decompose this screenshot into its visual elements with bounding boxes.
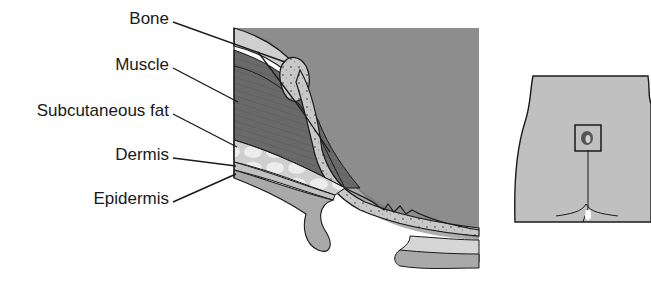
inset-body-view xyxy=(515,76,651,222)
cross-section xyxy=(234,28,479,269)
label-subcutaneous-fat: Subcutaneous fat xyxy=(37,101,169,121)
label-dermis: Dermis xyxy=(115,145,169,165)
label-epidermis: Epidermis xyxy=(93,189,169,209)
body-silhouette xyxy=(515,76,651,222)
diagram-canvas xyxy=(0,0,651,281)
label-muscle: Muscle xyxy=(115,55,169,75)
label-bone: Bone xyxy=(129,9,169,29)
